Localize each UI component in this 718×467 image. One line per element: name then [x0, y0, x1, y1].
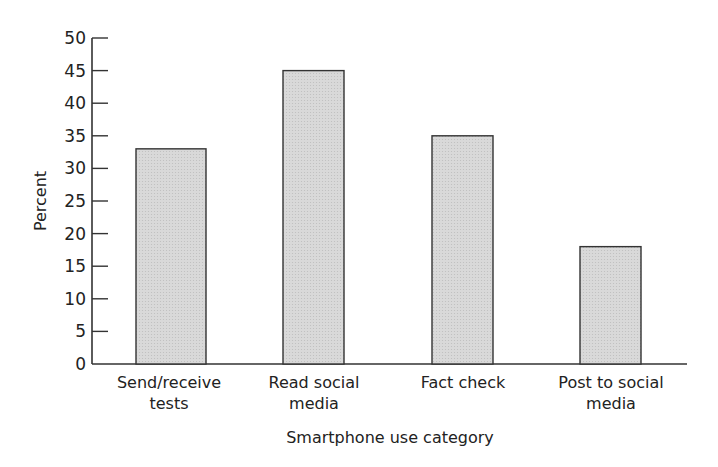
y-axis: 05101520253035404550 [64, 28, 108, 374]
bar-send-receive-tests [136, 149, 206, 364]
x-category-label: Fact check [421, 373, 506, 392]
y-tick-label: 15 [64, 256, 86, 276]
bar-fact-check [432, 136, 493, 364]
y-tick-label: 30 [64, 158, 86, 178]
bars [136, 71, 641, 364]
y-tick-label: 45 [64, 61, 86, 81]
bar-chart: 05101520253035404550 Send/receivetestsRe… [0, 0, 718, 467]
category-labels: Send/receivetestsRead socialmediaFact ch… [117, 373, 664, 413]
x-axis-title: Smartphone use category [286, 428, 494, 447]
y-tick-label: 50 [64, 28, 86, 48]
y-axis-title: Percent [31, 171, 50, 231]
y-tick-label: 10 [64, 289, 86, 309]
y-tick-label: 35 [64, 126, 86, 146]
y-tick-label: 0 [75, 354, 86, 374]
x-category-label: Read socialmedia [269, 373, 360, 413]
x-category-label: Post to socialmedia [558, 373, 663, 413]
y-tick-label: 40 [64, 93, 86, 113]
bar-read-social-media [283, 71, 344, 364]
y-tick-label: 20 [64, 224, 86, 244]
x-category-label: Send/receivetests [117, 373, 221, 413]
y-tick-label: 5 [75, 321, 86, 341]
bar-post-to-social-media [580, 247, 641, 364]
y-tick-label: 25 [64, 191, 86, 211]
